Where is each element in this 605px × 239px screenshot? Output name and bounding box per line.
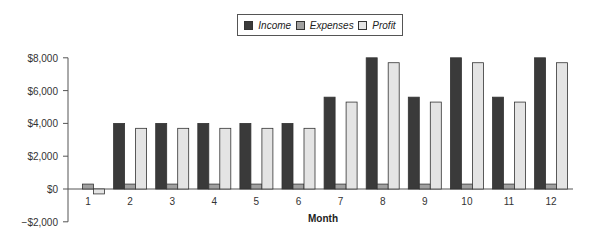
bar-profit (430, 102, 441, 189)
bar-expenses (293, 184, 304, 189)
bar-profit (304, 128, 315, 189)
bar-income (240, 123, 251, 189)
bar-income (156, 123, 167, 189)
bar-income (493, 97, 504, 189)
bar-expenses (546, 184, 557, 189)
x-tick-label: 3 (169, 196, 175, 207)
bar-income (114, 123, 125, 189)
x-axis-title: Month (308, 213, 338, 224)
bar-expenses (335, 184, 346, 189)
bar-income (366, 58, 377, 189)
bar-income (198, 123, 209, 189)
x-tick-label: 6 (296, 196, 302, 207)
bar-profit (515, 102, 526, 189)
y-tick-label: $4,000 (27, 118, 58, 129)
bar-income (535, 58, 546, 189)
bar-profit (262, 128, 273, 189)
y-tick-label: $6,000 (27, 85, 58, 96)
x-tick-label: 9 (422, 196, 428, 207)
x-tick-label: 12 (546, 196, 557, 207)
bar-income (324, 97, 335, 189)
x-tick-label: 5 (254, 196, 260, 207)
bar-income (450, 58, 461, 189)
bar-expenses (377, 184, 388, 189)
y-tick-label: $2,000 (27, 151, 58, 162)
bar-expenses (251, 184, 262, 189)
bar-expenses (504, 184, 515, 189)
bar-profit (178, 128, 189, 189)
x-tick-label: 10 (461, 196, 472, 207)
bar-expenses (419, 184, 430, 189)
bar-income (408, 97, 419, 189)
x-tick-label: 4 (212, 196, 218, 207)
y-tick-label: $8,000 (27, 52, 58, 63)
x-tick-label: 7 (338, 196, 344, 207)
bar-expenses (167, 184, 178, 189)
y-tick-label: $0 (47, 184, 58, 195)
bar-profit (388, 63, 399, 189)
x-tick-label: 8 (380, 196, 386, 207)
x-tick-label: 11 (504, 196, 514, 207)
bar-expenses (125, 184, 136, 189)
bar-expenses (209, 184, 220, 189)
bar-profit (94, 189, 105, 194)
y-tick-label: −$2,000 (22, 216, 58, 227)
bar-expenses (461, 184, 472, 189)
bar-income (282, 123, 293, 189)
bar-profit (136, 128, 147, 189)
bar-profit (472, 63, 483, 189)
bar-expenses (83, 184, 94, 189)
x-tick-label: 2 (127, 196, 133, 207)
bar-profit (346, 102, 357, 189)
bar-profit (557, 63, 568, 189)
x-tick-label: 1 (85, 196, 91, 207)
bar-profit (220, 128, 231, 189)
